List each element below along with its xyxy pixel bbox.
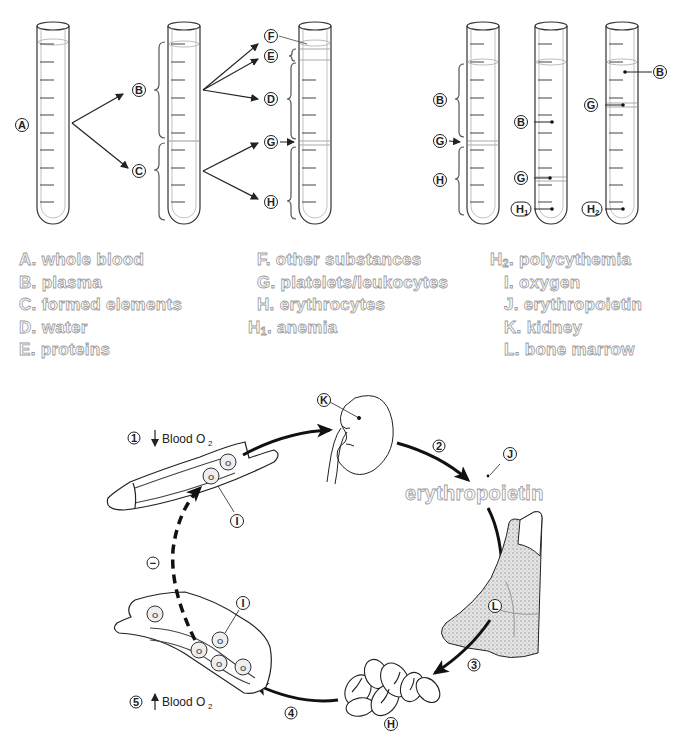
- arrow-step-2: [397, 443, 468, 480]
- svg-text:5: 5: [133, 696, 139, 708]
- legend-item-J: J. erythropoietin: [504, 294, 642, 317]
- label-B: B: [133, 84, 146, 97]
- label-G-normal: G: [434, 135, 447, 148]
- svg-text:3: 3: [471, 659, 477, 671]
- step-2-label: 2: [433, 440, 445, 452]
- svg-text:1: 1: [131, 432, 137, 444]
- tube-components: [279, 22, 331, 224]
- svg-text:D: D: [267, 93, 275, 105]
- step-5-label: 5 Blood O 2: [130, 694, 213, 711]
- svg-text:I: I: [241, 597, 244, 609]
- o2-molecule-top-2: O: [203, 468, 219, 484]
- tube-normal: [455, 22, 499, 224]
- diagram-canvas: A B C F: [0, 0, 675, 747]
- legend-column-2: F. other substances G. platelets/leukocy…: [257, 249, 448, 339]
- legend-item-F: F. other substances: [257, 249, 448, 272]
- legend-item-K: K. kidney: [504, 317, 642, 340]
- svg-text:G: G: [517, 172, 526, 184]
- svg-text:−: −: [150, 557, 156, 569]
- svg-text:G: G: [267, 136, 276, 148]
- label-H: H: [265, 196, 278, 209]
- o2-molecule-bottom-2: O: [212, 632, 228, 648]
- svg-text:2: 2: [595, 208, 600, 217]
- svg-text:F: F: [268, 30, 275, 42]
- label-D: D: [265, 93, 278, 106]
- step-4-label: 4: [285, 707, 297, 719]
- svg-text:O: O: [225, 459, 231, 468]
- svg-text:2: 2: [436, 440, 442, 452]
- label-B-anemia: B: [515, 116, 528, 129]
- bone-marrow: [441, 512, 542, 658]
- tube-separated: [154, 22, 200, 224]
- svg-text:B: B: [656, 66, 664, 78]
- svg-text:L: L: [492, 600, 499, 612]
- svg-text:O: O: [216, 660, 222, 669]
- svg-text:C: C: [135, 165, 143, 177]
- label-H-normal: H: [434, 174, 447, 187]
- label-H2: H2: [582, 202, 602, 217]
- svg-text:G: G: [587, 99, 596, 111]
- svg-text:1: 1: [524, 208, 529, 217]
- erythropoietin-label: erythropoietin: [405, 482, 544, 505]
- tube-polycythemia: [605, 22, 652, 224]
- o2-molecule-bottom-1: O: [147, 606, 163, 622]
- legend-item-G: G. platelets/leukocytes: [257, 272, 448, 295]
- legend-column-1: A. whole blood B. plasma C. formed eleme…: [19, 249, 182, 362]
- arrow-to-kidney: [243, 430, 330, 455]
- svg-text:I: I: [235, 515, 238, 527]
- label-H-cycle: H: [385, 718, 398, 731]
- arrows-B-to-FED: [203, 44, 258, 199]
- legend-item-H1: H1. anemia: [248, 317, 448, 340]
- legend-item-H2: H2. polycythemia: [490, 249, 642, 272]
- svg-text:B: B: [517, 116, 525, 128]
- svg-text:E: E: [267, 50, 274, 62]
- svg-text:O: O: [217, 637, 223, 646]
- label-G-poly: G: [585, 99, 598, 112]
- svg-text:O: O: [240, 664, 246, 673]
- blood-vessel-low-o2: [107, 442, 278, 510]
- legend-column-3: H2. polycythemia I. oxygen J. erythropoi…: [490, 249, 642, 362]
- label-B-poly: B: [654, 66, 667, 79]
- label-L: L: [489, 600, 502, 613]
- label-H1: H1: [511, 202, 531, 217]
- step-3-label: 3: [468, 659, 480, 671]
- o2-molecule-bottom-3: O: [191, 642, 207, 658]
- label-I-top: I: [218, 486, 244, 528]
- svg-text:G: G: [436, 135, 445, 147]
- legend-item-E: E. proteins: [19, 339, 182, 362]
- svg-text:H: H: [516, 203, 524, 215]
- svg-text:Blood O: Blood O: [162, 695, 205, 709]
- legend-item-D: D. water: [19, 317, 182, 340]
- svg-text:B: B: [135, 84, 143, 96]
- legend-item-L: L. bone marrow: [504, 339, 642, 362]
- o2-molecule-top-1: O: [220, 454, 236, 470]
- svg-text:H: H: [387, 718, 395, 730]
- label-F: F: [265, 30, 278, 43]
- step-1-label: 1 Blood O 2: [128, 430, 213, 448]
- svg-text:2: 2: [208, 439, 213, 448]
- svg-text:K: K: [320, 394, 328, 406]
- legend-item-H: H. erythrocytes: [257, 294, 448, 317]
- svg-text:H: H: [587, 203, 595, 215]
- label-G-anemia: G: [515, 172, 528, 185]
- label-E: E: [265, 50, 278, 63]
- label-A: A: [16, 119, 29, 132]
- svg-text:B: B: [436, 94, 444, 106]
- arrow-step-4: [255, 684, 338, 701]
- label-G: G: [265, 136, 278, 149]
- arrows-A-to-BC: [72, 94, 128, 168]
- o2-molecule-bottom-5: O: [235, 659, 251, 675]
- legend-item-A: A. whole blood: [19, 249, 182, 272]
- kidney: [327, 396, 393, 484]
- tube-whole-blood: [37, 22, 69, 224]
- svg-text:O: O: [196, 647, 202, 656]
- label-K: K: [318, 394, 331, 407]
- svg-text:A: A: [18, 119, 26, 131]
- svg-text:O: O: [152, 611, 158, 620]
- tube-anemia: [534, 22, 567, 224]
- label-C: C: [133, 165, 146, 178]
- svg-text:2: 2: [208, 702, 213, 711]
- label-J: J: [487, 448, 517, 478]
- svg-text:O: O: [208, 473, 214, 482]
- legend-item-I: I. oxygen: [504, 272, 642, 295]
